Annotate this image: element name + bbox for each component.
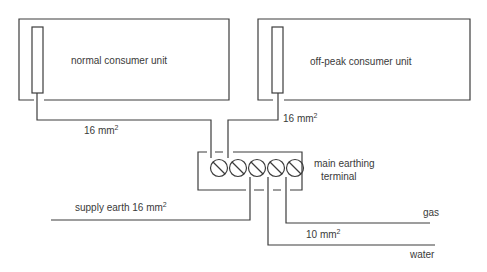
terminal-screws	[211, 160, 304, 177]
normal-conductor-size: 16 mm2	[84, 124, 119, 136]
bonding-size-label: 10 mm2	[306, 228, 341, 240]
terminal-label-line1: main earthing	[314, 158, 375, 169]
gas-label: gas	[423, 207, 439, 218]
offpeak-consumer-unit: off-peak consumer unit	[258, 19, 470, 100]
water-label: water	[409, 249, 435, 260]
offpeak-conductor-size: 16 mm2	[283, 112, 318, 124]
offpeak-unit-earth-bar	[272, 27, 283, 93]
normal-unit-earth-conductor	[37, 93, 211, 158]
offpeak-unit-label: off-peak consumer unit	[310, 56, 412, 67]
earthing-diagram: normal consumer unit off-peak consumer u…	[0, 0, 487, 272]
terminal-label-line2: terminal	[321, 171, 357, 182]
supply-earth-label: supply earth 16 mm2	[75, 201, 167, 213]
normal-unit-earth-bar	[32, 27, 43, 93]
gas-bonding-conductor	[286, 177, 430, 223]
normal-unit-label: normal consumer unit	[71, 55, 167, 66]
water-bonding-conductor	[268, 177, 435, 245]
normal-consumer-unit: normal consumer unit	[19, 19, 229, 100]
supply-earth-conductor	[51, 177, 250, 220]
offpeak-unit-earth-conductor	[228, 93, 278, 158]
